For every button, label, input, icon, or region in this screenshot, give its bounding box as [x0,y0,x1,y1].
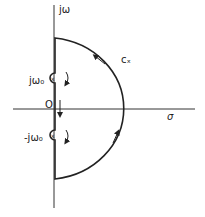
origin-label: O [45,100,53,110]
arrow-icon-upper-indent [66,72,68,84]
real-axis-label: σ [167,112,173,122]
pole-marker-upper: x [51,75,55,82]
pole-marker-lower: x [51,132,55,139]
arrow-icon-lower-indent [66,130,68,142]
imag-axis-label: jω [59,5,70,15]
nyquist-contour-diagram: x x jω σ O cₓ jω₀ -jω₀ [0,0,205,217]
pole-lower-label: -jω₀ [24,133,43,143]
contour-label: cₓ [121,55,131,65]
pole-upper-label: jω₀ [29,76,44,86]
contour-graphic: x x [0,0,205,217]
